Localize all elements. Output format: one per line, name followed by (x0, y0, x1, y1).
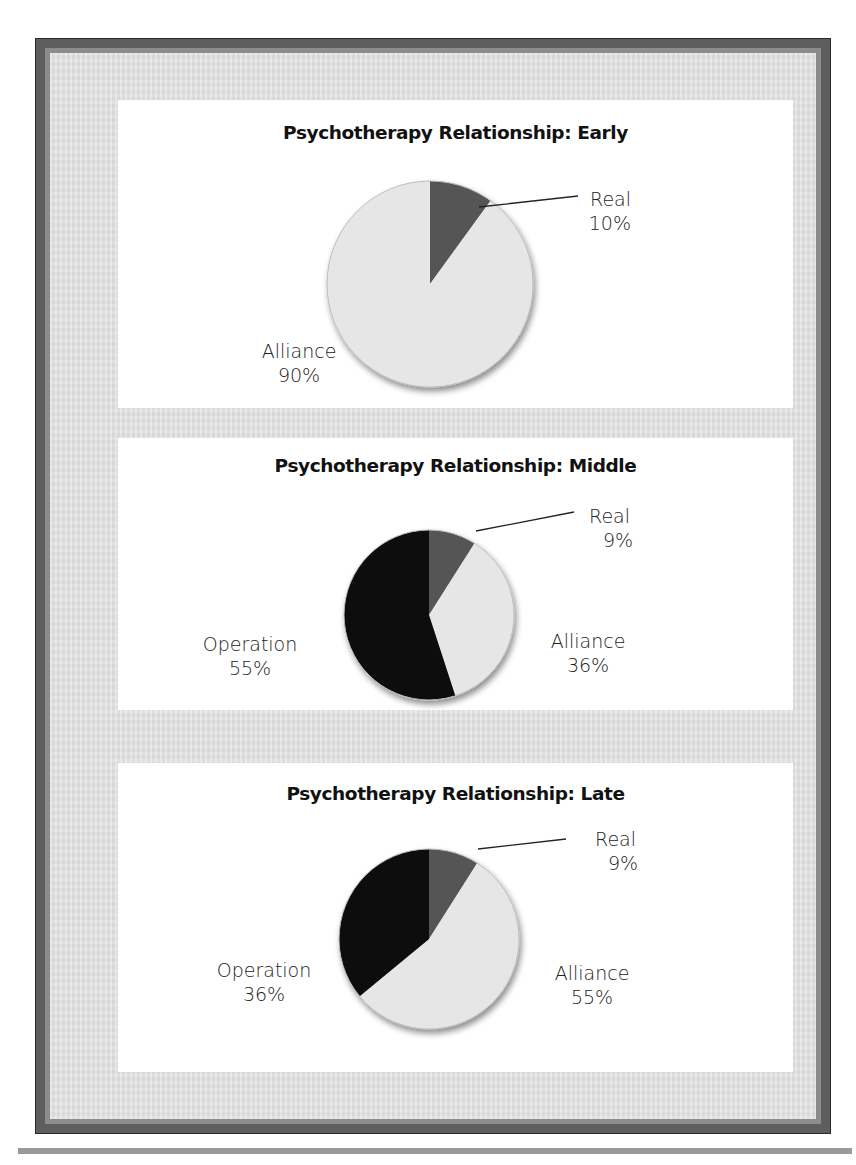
pie-early (327, 181, 533, 387)
pie-chart-middle: Real 9% Alliance 36% Operation 55% (118, 438, 793, 710)
label-alliance-value: 55% (571, 986, 613, 1008)
chart-panel-middle: Psychotherapy Relationship: Middle Real … (118, 438, 793, 710)
label-real-value: 9% (608, 852, 638, 874)
label-real-name: Real (595, 828, 636, 850)
label-real-value: 10% (589, 212, 631, 234)
label-real-name: Real (590, 188, 631, 210)
label-operation-value: 36% (243, 983, 285, 1005)
label-real-value: 9% (603, 529, 633, 551)
label-alliance-name: Alliance (551, 630, 626, 652)
label-operation-name: Operation (217, 959, 312, 981)
chart-panel-late: Psychotherapy Relationship: Late Real 9%… (118, 763, 793, 1072)
leader-line-real (476, 512, 574, 531)
label-real-name: Real (589, 505, 630, 527)
pie-slice-alliance (327, 181, 533, 387)
label-operation-name: Operation (203, 633, 298, 655)
pie-chart-late: Real 9% Alliance 55% Operation 36% (118, 763, 793, 1072)
pie-chart-early: Real 10% Alliance 90% (118, 100, 793, 408)
pie-late (339, 849, 519, 1029)
label-alliance-name: Alliance (555, 962, 630, 984)
leader-line-real (478, 839, 566, 849)
pie-middle (344, 530, 514, 700)
label-alliance-value: 36% (567, 654, 609, 676)
label-alliance-value: 90% (278, 364, 320, 386)
label-operation-value: 55% (229, 657, 271, 679)
label-alliance-name: Alliance (262, 340, 337, 362)
leader-line-real (479, 196, 578, 207)
chart-panel-early: Psychotherapy Relationship: Early Real 1… (118, 100, 793, 408)
page-divider-rule (18, 1148, 852, 1154)
